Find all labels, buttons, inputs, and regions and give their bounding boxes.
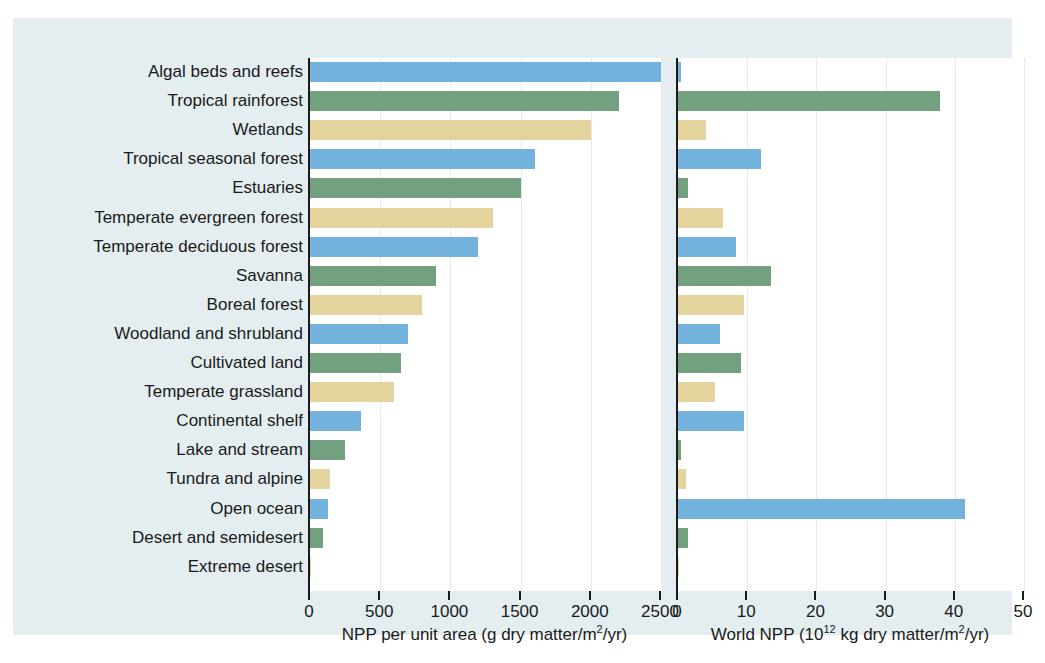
category-label: Cultivated land (191, 353, 303, 373)
axis-tick (676, 591, 678, 600)
category-label: Temperate evergreen forest (94, 208, 303, 228)
axis-tick (378, 591, 380, 600)
x-axis-title-left: NPP per unit area (g dry matter/m2/yr) (308, 623, 661, 645)
axis-tick-label: 10 (737, 602, 756, 622)
bar (678, 120, 706, 140)
plot-world-npp (676, 58, 1024, 591)
gridline (661, 58, 662, 591)
bar (310, 295, 422, 315)
axis-tick (745, 591, 747, 600)
category-label: Extreme desert (188, 557, 303, 577)
bar (678, 149, 761, 169)
gridline (1024, 58, 1025, 591)
axis-tick-label: 30 (875, 602, 894, 622)
bar (678, 91, 940, 111)
bar (310, 440, 345, 460)
bar (678, 324, 720, 344)
bar (310, 62, 661, 82)
axis-tick-label: 0 (304, 602, 313, 622)
category-label: Continental shelf (176, 411, 303, 431)
bar (678, 469, 686, 489)
category-label: Tundra and alpine (167, 469, 303, 489)
category-label: Wetlands (232, 120, 303, 140)
bar (310, 149, 535, 169)
bar (678, 440, 681, 460)
bar (310, 528, 323, 548)
bar (310, 324, 408, 344)
bar (678, 178, 688, 198)
bar (310, 91, 619, 111)
axis-tick (884, 591, 886, 600)
category-label: Desert and semidesert (132, 528, 303, 548)
category-label: Algal beds and reefs (148, 62, 303, 82)
category-label: Boreal forest (207, 295, 303, 315)
bar (678, 208, 723, 228)
axis-tick (589, 591, 591, 600)
bar (678, 411, 744, 431)
bar (310, 353, 401, 373)
category-label: Tropical rainforest (168, 91, 303, 111)
axis-tick-label: 1000 (430, 602, 468, 622)
axis-tick-label: 500 (365, 602, 393, 622)
x-ticks-left: 05001000150020002500 (308, 591, 661, 621)
bar (310, 208, 493, 228)
axis-tick-label: 2000 (571, 602, 609, 622)
category-label: Open ocean (210, 499, 303, 519)
bar (310, 411, 361, 431)
category-label: Temperate grassland (144, 382, 303, 402)
bar (678, 557, 679, 577)
bar (310, 237, 478, 257)
category-label: Estuaries (232, 178, 303, 198)
category-label: Temperate deciduous forest (93, 237, 303, 257)
bar (310, 120, 591, 140)
axis-tick (1022, 591, 1024, 600)
category-label: Tropical seasonal forest (123, 149, 303, 169)
category-label: Lake and stream (176, 440, 303, 460)
bar (678, 382, 715, 402)
axis-tick (519, 591, 521, 600)
figure-panel: Algal beds and reefsTropical rainforestW… (13, 18, 1012, 635)
axis-tick-label: 20 (806, 602, 825, 622)
axis-tick-label: 0 (672, 602, 681, 622)
category-axis-labels: Algal beds and reefsTropical rainforestW… (31, 58, 303, 591)
category-label: Woodland and shrubland (114, 324, 303, 344)
bar (678, 353, 741, 373)
axis-tick-label: 40 (944, 602, 963, 622)
category-label: Savanna (236, 266, 303, 286)
plot-npp-per-unit-area (308, 58, 661, 591)
axis-tick-label: 50 (1014, 602, 1033, 622)
bar (678, 266, 771, 286)
x-ticks-right: 01020304050 (676, 591, 1024, 621)
bar (310, 178, 521, 198)
x-axis-title-right: World NPP (1012 kg dry matter/m2/yr) (676, 623, 1024, 645)
axis-tick (308, 591, 310, 600)
bar (310, 266, 436, 286)
bar (678, 62, 681, 82)
axis-tick (448, 591, 450, 600)
bar (310, 382, 394, 402)
axis-tick (953, 591, 955, 600)
bar (310, 557, 311, 577)
gridline (591, 58, 592, 591)
bar (678, 499, 965, 519)
bar (678, 295, 744, 315)
axis-tick (659, 591, 661, 600)
axis-tick-label: 1500 (501, 602, 539, 622)
bar (310, 469, 330, 489)
bar (310, 499, 328, 519)
figure-page: Algal beds and reefsTropical rainforestW… (0, 0, 1045, 663)
bar (678, 237, 736, 257)
bar (678, 528, 688, 548)
axis-tick (814, 591, 816, 600)
